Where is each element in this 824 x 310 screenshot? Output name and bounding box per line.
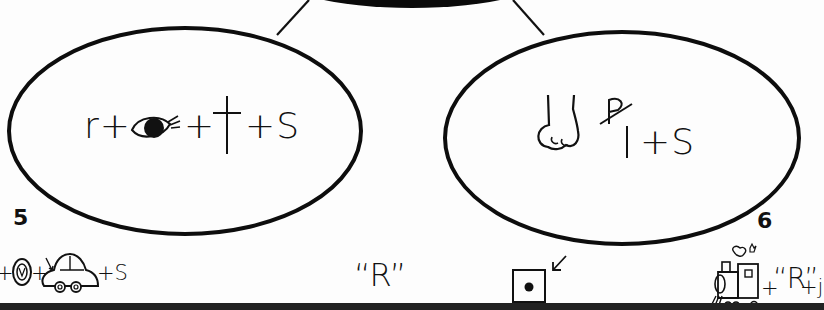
clue-5-suffix: +S xyxy=(97,263,128,284)
clue-quote-r: “R” xyxy=(354,259,406,291)
dotted-box-icon xyxy=(513,270,545,302)
clue-5-middle: + xyxy=(31,263,49,284)
clue-5-prefix: + xyxy=(0,263,14,284)
rebus-left-plus: + xyxy=(184,108,215,144)
connector-right xyxy=(513,0,544,35)
arrow-down-left-icon xyxy=(553,256,566,270)
center-bubble xyxy=(272,0,552,8)
clue-6-tail: +j xyxy=(800,277,823,298)
crossed-letter-p xyxy=(600,99,632,124)
item-number-5: 5 xyxy=(13,207,28,229)
eye-icon xyxy=(132,116,180,138)
car-icon xyxy=(42,254,98,292)
right-oval xyxy=(445,32,799,244)
rebus-left-suffix: +S xyxy=(245,108,300,144)
item-number-6: 6 xyxy=(757,210,772,232)
nose-icon xyxy=(538,95,578,149)
connector-left xyxy=(277,0,309,35)
rebus-right-suffix: +S xyxy=(640,124,695,160)
worksheet-page: r+ + +S +S 5 6 + + +S “R” + “R” +j xyxy=(0,0,824,310)
rebus-left-prefix: r+ xyxy=(84,108,131,144)
cross-icon xyxy=(213,96,241,154)
train-icon xyxy=(710,244,758,309)
bottom-divider xyxy=(0,303,824,310)
ring-icon xyxy=(13,259,31,285)
